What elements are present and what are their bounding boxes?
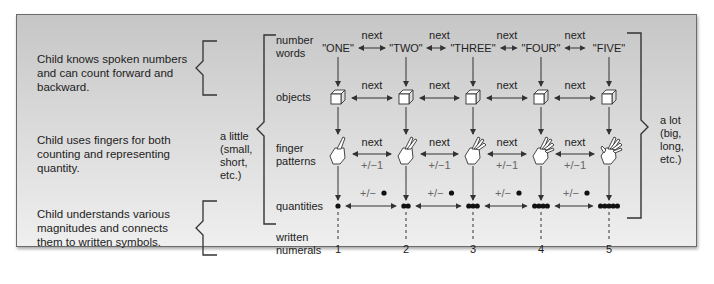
row-label-written-numerals: written numerals [275, 231, 322, 256]
brace-right-scale [627, 33, 648, 218]
dot-icon [449, 190, 454, 195]
written-numeral: 1 [335, 243, 341, 255]
cube-front [331, 94, 341, 104]
row-label-quantities: quantities [276, 200, 324, 212]
next-label: next [497, 136, 518, 148]
columns: "ONE"1"TWO"2"THREE"3"FOUR"4"FIVE"5nextne… [322, 29, 625, 255]
description-line: backward. [37, 81, 89, 93]
dot-icon [545, 203, 550, 208]
row-label-objects: objects [276, 91, 311, 103]
description-line: magnitudes and connects [37, 222, 168, 234]
plus-minus-dot-label: +/− [428, 187, 444, 199]
cube-front [534, 94, 544, 104]
next-label: next [429, 79, 450, 91]
cube-icon [399, 90, 413, 104]
next-label: next [565, 79, 586, 91]
row-label-number-words: number words [275, 34, 314, 59]
dot-icon [584, 190, 589, 195]
scale-line: long, [660, 140, 684, 152]
written-numeral: 2 [403, 243, 409, 255]
row-label-finger-patterns: finger patterns [276, 142, 316, 167]
palm [465, 148, 480, 164]
number-word: "TWO" [389, 42, 423, 54]
hand-icon [533, 137, 554, 164]
next-label: next [362, 79, 383, 91]
plus-minus-one-label: +/−1 [496, 159, 518, 171]
scale-line: (small, [220, 143, 252, 155]
brace-1 [196, 41, 217, 95]
description-line: Child uses fingers for both [37, 134, 171, 146]
dot-icon [335, 203, 340, 208]
quantity-dots [466, 203, 480, 208]
palm [398, 148, 413, 164]
next-label: next [497, 29, 518, 41]
scale-line: a little [220, 130, 249, 142]
description-line: and can count forward and [37, 67, 173, 79]
dot-icon [615, 203, 620, 208]
scale-line: (big, [660, 127, 681, 139]
number-word: "FIVE" [593, 42, 625, 54]
next-label: next [497, 79, 518, 91]
plus-minus-dot-label: +/− [495, 187, 511, 199]
quantity-dots [598, 203, 620, 208]
plus-minus-one-label: +/−1 [428, 159, 450, 171]
hand-icon [330, 137, 345, 164]
right-scale-label: a lot (big, long, etc.) [660, 114, 684, 165]
next-label: next [429, 29, 450, 41]
dot-icon [516, 190, 521, 195]
palm [330, 148, 345, 164]
plus-minus-dot-label: +/− [563, 187, 579, 199]
scale-line: etc.) [220, 169, 241, 181]
cube-front [602, 94, 612, 104]
description-line: them to written symbols. [37, 236, 161, 248]
description-1: Child knows spoken numbers and can count… [37, 53, 187, 93]
row-label-line: numerals [276, 244, 322, 256]
plus-minus-one-label: +/−1 [564, 159, 586, 171]
written-numeral: 5 [606, 243, 612, 255]
cube-icon [602, 90, 616, 104]
description-2: Child uses fingers for both counting and… [37, 134, 171, 174]
description-line: counting and representing [37, 148, 170, 160]
cube-icon [466, 90, 480, 104]
next-label: next [362, 29, 383, 41]
description-3: Child understands various magnitudes and… [37, 208, 170, 248]
hand-icon [601, 137, 622, 164]
row-label-line: number [276, 34, 314, 46]
row-label-line: written [275, 231, 308, 243]
description-line: Child understands various [37, 208, 170, 220]
next-label: next [429, 136, 450, 148]
number-word: "FOUR" [522, 42, 561, 54]
row-label-line: words [275, 47, 306, 59]
scale-line: a lot [660, 114, 681, 126]
row-label-line: patterns [276, 155, 316, 167]
finger [337, 137, 345, 149]
quantity-dots [532, 203, 550, 208]
cube-icon [331, 90, 345, 104]
dot-icon [381, 190, 386, 195]
number-word: "ONE" [322, 42, 354, 54]
number-word: "THREE" [450, 42, 495, 54]
counting-diagram: Child knows spoken numbers and can count… [0, 0, 714, 284]
plus-minus-one-label: +/−1 [361, 159, 383, 171]
cube-front [466, 94, 476, 104]
next-label: next [362, 136, 383, 148]
dot-icon [406, 203, 411, 208]
next-label: next [565, 136, 586, 148]
hand-icon [398, 137, 417, 164]
quantity-dots [335, 203, 340, 208]
left-scale-label: a little (small, short, etc.) [220, 130, 252, 181]
plus-minus-dot-label: +/− [360, 187, 376, 199]
written-numeral: 4 [538, 243, 544, 255]
written-numeral: 3 [470, 243, 476, 255]
quantity-dots [401, 203, 410, 208]
scale-line: short, [220, 156, 248, 168]
description-line: Child knows spoken numbers [37, 53, 187, 65]
row-label-line: finger [276, 142, 304, 154]
hand-icon [465, 137, 486, 164]
brace-left-scale [257, 35, 276, 224]
scale-line: etc.) [660, 153, 681, 165]
next-label: next [565, 29, 586, 41]
brace-3 [196, 201, 217, 255]
dot-icon [475, 203, 480, 208]
cube-front [399, 94, 409, 104]
